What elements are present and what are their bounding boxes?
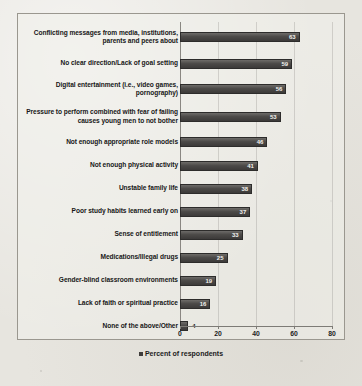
bar-row: Not enough physical activity 41 [18, 154, 344, 177]
bar[interactable]: 53 [180, 112, 281, 122]
axis-tick [218, 326, 219, 329]
bar-row: No clear direction/Lack of goal setting … [18, 52, 344, 75]
bar-value-label: 38 [242, 186, 249, 192]
bar[interactable]: 59 [180, 59, 292, 69]
bar-row: Unstable family life 38 [18, 177, 344, 200]
bar-row: Lack of faith or spiritual practice 16 [18, 292, 344, 315]
bar[interactable]: 33 [180, 230, 243, 240]
bar[interactable]: 38 [180, 184, 252, 194]
category-label: Poor study habits learned early on [18, 207, 178, 215]
category-label: Pressure to perform combined with fear o… [18, 108, 178, 125]
category-label: No clear direction/Lack of goal setting [18, 59, 178, 67]
bar-row: Gender-blind classroom environments 19 [18, 269, 344, 292]
bar-value-label: 37 [240, 209, 247, 215]
chart-legend: Percent of respondents [18, 350, 344, 357]
axis-tick [332, 326, 333, 329]
category-label: Lack of faith or spiritual practice [18, 299, 178, 307]
category-label: Digital entertainment (i.e., video games… [18, 81, 178, 98]
bar[interactable]: 25 [180, 253, 228, 263]
axis-tick-label: 40 [252, 330, 260, 337]
axis-tick [256, 326, 257, 329]
bar-value-label: 33 [232, 232, 239, 238]
bar-row: Digital entertainment (i.e., video games… [18, 75, 344, 103]
category-label: Conflicting messages from media, institu… [18, 29, 178, 46]
bar[interactable]: 56 [180, 84, 286, 94]
axis-tick-label: 60 [290, 330, 298, 337]
axis-tick-label: 80 [328, 330, 336, 337]
axis-tick-label: 20 [214, 330, 222, 337]
axis-tick [294, 326, 295, 329]
bar-value-label: 16 [200, 301, 207, 307]
bar[interactable]: 46 [180, 137, 267, 147]
paper-speck [40, 370, 42, 372]
legend-marker-icon [139, 352, 143, 356]
bar[interactable]: 63 [180, 32, 300, 42]
category-label: None of the above/Other [18, 322, 178, 330]
bar-chart: Conflicting messages from media, institu… [17, 13, 345, 340]
bar[interactable]: 37 [180, 207, 250, 217]
bar-value-label: 25 [217, 255, 224, 261]
category-label: Medications/Illegal drugs [18, 253, 178, 261]
category-label: Not enough appropriate role models [18, 138, 178, 146]
category-label: Not enough physical activity [18, 161, 178, 169]
bar-value-label: 46 [257, 139, 264, 145]
bar-rows: Conflicting messages from media, institu… [18, 22, 344, 326]
bar-row: Poor study habits learned early on 37 [18, 200, 344, 223]
bar-row: Sense of entitlement 33 [18, 223, 344, 246]
category-label: Sense of entitlement [18, 230, 178, 238]
paper-speck [300, 360, 303, 362]
page-background: Conflicting messages from media, institu… [0, 0, 362, 386]
bar[interactable]: 19 [180, 276, 216, 286]
axis-tick [180, 326, 181, 329]
bar-value-label: 63 [289, 34, 296, 40]
bar[interactable]: 41 [180, 161, 258, 171]
bar-row: Pressure to perform combined with fear o… [18, 103, 344, 130]
bar-value-label: 56 [276, 86, 283, 92]
bar-value-label: 19 [205, 278, 212, 284]
bar-value-label: 53 [270, 114, 277, 120]
plot-area: Conflicting messages from media, institu… [18, 14, 344, 339]
category-label: Gender-blind classroom environments [18, 276, 178, 284]
bar-value-label: 41 [247, 163, 254, 169]
category-label: Unstable family life [18, 184, 178, 192]
bar-row: Not enough appropriate role models 46 [18, 130, 344, 154]
axis-tick-label: 0 [178, 330, 182, 337]
legend-label: Percent of respondents [145, 350, 223, 357]
bar-row: Medications/Illegal drugs 25 [18, 246, 344, 269]
bar-row: Conflicting messages from media, institu… [18, 22, 344, 52]
bar-value-label: 59 [281, 61, 288, 67]
bar[interactable]: 16 [180, 299, 210, 309]
